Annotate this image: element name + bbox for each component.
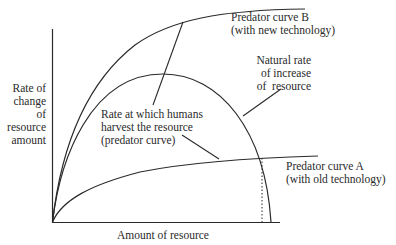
natural-rate-curve	[53, 74, 272, 222]
predator-curve-a	[53, 156, 319, 222]
x-axis-label: Amount of resource	[117, 229, 209, 242]
label-line: (with new technology)	[231, 24, 335, 37]
y-label-line: of	[0, 108, 46, 121]
harvest-leader-to-curve-b	[153, 22, 183, 105]
harvest-rate-label: Rate at which humans harvest the resourc…	[101, 108, 203, 147]
y-axis-label: Rate of change of resource amount	[0, 82, 46, 147]
label-line: (with old technology)	[286, 173, 386, 186]
label-line: harvest the resource	[101, 121, 203, 134]
natural-rate-label: Natural rate of increase of resource	[250, 54, 311, 93]
natural-rate-leader	[243, 89, 281, 116]
predator-curve-a-label: Predator curve A (with old technology)	[286, 160, 386, 186]
label-line: Predator curve B	[231, 11, 335, 24]
label-line: Rate at which humans	[101, 108, 203, 121]
label-line: Predator curve A	[286, 160, 386, 173]
y-label-line: Rate of	[0, 82, 46, 95]
predator-curve-b-label: Predator curve B (with new technology)	[231, 11, 335, 37]
y-label-line: change	[0, 95, 46, 108]
y-label-line: resource	[0, 121, 46, 134]
label-line: (predator curve)	[101, 134, 203, 147]
y-label-line: amount	[0, 134, 46, 147]
label-line: of resource	[250, 80, 311, 93]
label-line: Natural rate	[250, 54, 311, 67]
label-line: of increase	[250, 67, 311, 80]
